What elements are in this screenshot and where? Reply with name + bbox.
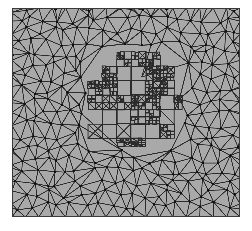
mesh-canvas xyxy=(12,8,240,217)
mesh-plot-area xyxy=(12,8,240,217)
figure-root: Adaptive finite element mesh with locall… xyxy=(0,0,252,231)
